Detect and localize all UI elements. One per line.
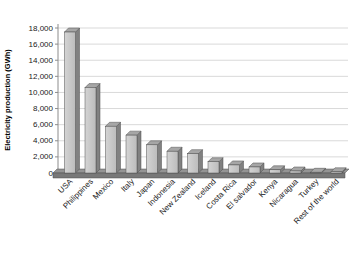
bar-side-face	[117, 122, 121, 173]
bar-front-face	[208, 162, 219, 173]
y-axis	[55, 24, 58, 174]
bar-el-salvador	[249, 163, 264, 173]
bar-side-face	[76, 28, 80, 173]
x-label-italy: Italy	[119, 177, 136, 194]
bar-new-zealand	[188, 150, 203, 173]
y-tick-label-8-000: 8,000	[33, 104, 54, 113]
gridlines	[58, 28, 348, 157]
y-tick-label-18-000: 18,000	[29, 24, 54, 33]
bar-front-face	[290, 171, 301, 173]
electricity-production-bar-chart: 02,0004,0006,0008,00010,00012,00014,0001…	[0, 0, 352, 262]
y-tick-label-4-000: 4,000	[33, 136, 54, 145]
bar-front-face	[188, 154, 199, 173]
bar-front-face	[270, 170, 281, 173]
bar-front-face	[106, 126, 117, 173]
bar-front-face	[126, 135, 137, 173]
y-tick-label-16-000: 16,000	[29, 40, 54, 49]
y-axis-title: Electricity production (GWh)	[3, 49, 12, 151]
bars	[65, 28, 347, 173]
bar-side-face	[137, 131, 141, 173]
bar-usa	[65, 28, 80, 173]
bar-front-face	[229, 165, 240, 173]
bar-mexico	[106, 122, 121, 173]
x-axis-labels: USAPhilippinesMexicoItalyJapanIndonesiaN…	[56, 177, 340, 226]
bar-iceland	[208, 158, 223, 173]
bar-front-face	[85, 88, 96, 173]
y-tick-label-2-000: 2,000	[33, 152, 54, 161]
y-tick-label-10-000: 10,000	[29, 88, 54, 97]
bar-front-face	[65, 32, 76, 173]
bar-front-face	[147, 145, 158, 173]
bar-costa-rica	[229, 161, 244, 173]
bar-italy	[126, 131, 141, 173]
bar-front-face	[249, 167, 260, 173]
bar-philippines	[85, 84, 100, 173]
bar-front-face	[311, 172, 322, 173]
y-tick-label-6-000: 6,000	[33, 120, 54, 129]
bar-indonesia	[167, 147, 182, 173]
y-axis-labels: 02,0004,0006,0008,00010,00012,00014,0001…	[29, 24, 54, 178]
chart-canvas: 02,0004,0006,0008,00010,00012,00014,0001…	[0, 0, 352, 262]
bar-side-face	[178, 147, 182, 173]
bar-japan	[147, 141, 162, 173]
bar-side-face	[96, 84, 100, 173]
y-tick-label-12-000: 12,000	[29, 72, 54, 81]
x-label-mexico: Mexico	[91, 177, 116, 202]
bar-front-face	[167, 151, 178, 173]
floor-front	[53, 173, 345, 178]
y-tick-label-14-000: 14,000	[29, 56, 54, 65]
bar-front-face	[331, 172, 342, 173]
bar-side-face	[158, 141, 162, 173]
